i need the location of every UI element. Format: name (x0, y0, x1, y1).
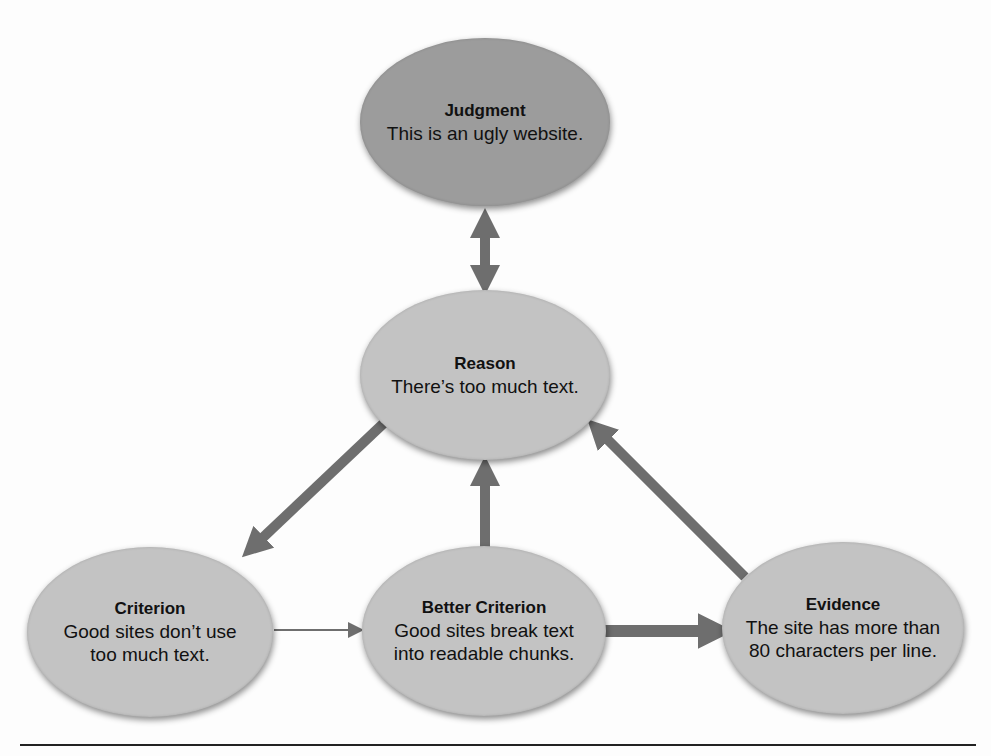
node-judgment: Judgment This is an ugly website. (360, 38, 610, 206)
node-judgment-text: This is an ugly website. (387, 122, 583, 145)
node-better-criterion-title: Better Criterion (422, 597, 547, 619)
node-reason-text: There’s too much text. (391, 375, 579, 398)
node-criterion-text-line1: Good sites don’t use (63, 620, 236, 643)
node-better-criterion: Better Criterion Good sites break text i… (362, 546, 606, 716)
arrow-reason-criterion (255, 422, 385, 545)
argument-diagram: Judgment This is an ugly website. Reason… (0, 0, 991, 756)
node-judgment-title: Judgment (444, 100, 525, 122)
node-evidence: Evidence The site has more than 80 chara… (722, 542, 964, 714)
node-reason: Reason There’s too much text. (360, 290, 610, 460)
node-evidence-title: Evidence (806, 594, 881, 616)
node-evidence-text-line1: The site has more than (746, 616, 940, 639)
node-reason-title: Reason (454, 353, 515, 375)
horizontal-rule (20, 744, 976, 746)
node-criterion-text-line2: too much text. (90, 643, 209, 666)
node-criterion: Criterion Good sites don’t use too much … (27, 547, 273, 717)
node-criterion-title: Criterion (115, 598, 186, 620)
node-evidence-text-line2: 80 characters per line. (749, 639, 937, 662)
node-better-criterion-text-line2: into readable chunks. (394, 642, 575, 665)
node-better-criterion-text-line1: Good sites break text (394, 619, 574, 642)
arrow-evidence-reason (600, 432, 745, 577)
